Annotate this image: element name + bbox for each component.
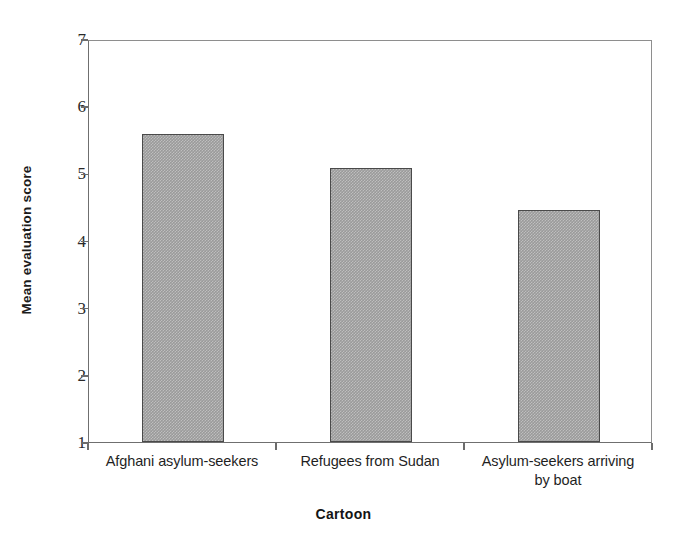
x-category-label: Asylum-seekers arrivingby boat [458,452,658,490]
y-tick-mark [81,174,88,175]
y-tick-label: 1 [46,433,86,453]
x-tick-mark [651,443,652,450]
x-tick-mark [87,443,88,450]
x-tick-mark [463,443,464,450]
y-axis-ticks: 1234567 [0,0,86,546]
bar-afghani-asylum-seekers [142,134,224,442]
x-axis-title: Cartoon [0,506,687,522]
bar-chart-figure: Mean evaluation score 1234567 Cartoon Af… [0,0,687,546]
y-tick-mark [81,375,88,376]
y-tick-mark [81,241,88,242]
y-tick-label: 3 [46,299,86,319]
y-tick-label: 4 [46,232,86,252]
x-category-label-line: Refugees from Sudan [270,452,470,471]
y-tick-mark [81,39,88,40]
y-tick-label: 6 [46,97,86,117]
x-category-label: Refugees from Sudan [270,452,470,471]
bar-asylum-seekers-arriving-by-boat [518,210,600,442]
x-tick-mark [275,443,276,450]
x-category-label-line: Afghani asylum-seekers [82,452,282,471]
x-category-label-line: by boat [458,471,658,490]
y-tick-label: 2 [46,366,86,386]
y-tick-label: 5 [46,164,86,184]
y-tick-label: 7 [46,30,86,50]
y-tick-mark [81,308,88,309]
x-category-label: Afghani asylum-seekers [82,452,282,471]
bar-refugees-from-sudan [330,168,412,442]
x-category-label-line: Asylum-seekers arriving [458,452,658,471]
y-tick-mark [81,106,88,107]
plot-area [88,40,652,443]
